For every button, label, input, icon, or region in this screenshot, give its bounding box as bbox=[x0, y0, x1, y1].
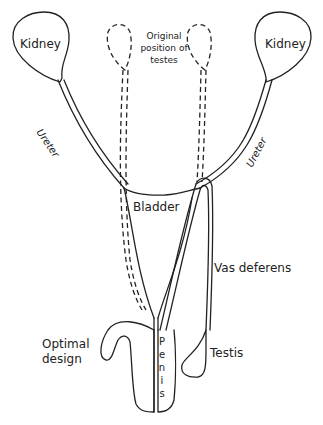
label-penis-i: i bbox=[161, 375, 164, 386]
label-original-3: testes bbox=[150, 55, 178, 65]
label-optimal-2: design bbox=[42, 352, 82, 366]
original-testis-left bbox=[107, 25, 131, 71]
anatomy-diagram: Kidney Kidney Original position of teste… bbox=[0, 0, 323, 425]
label-penis-p: P bbox=[159, 336, 165, 347]
ureter-right-outer bbox=[196, 80, 266, 184]
ureter-left-inner bbox=[64, 80, 128, 184]
label-bladder: Bladder bbox=[133, 200, 180, 214]
label-ureter-left: Ureter bbox=[34, 127, 62, 160]
label-optimal-1: Optimal bbox=[42, 337, 89, 351]
bladder bbox=[124, 188, 200, 195]
label-penis-n: n bbox=[159, 362, 165, 373]
penis-left bbox=[101, 322, 154, 412]
label-kidney-right: Kidney bbox=[265, 37, 306, 51]
original-path-right-1 bbox=[197, 70, 201, 182]
label-testis: Testis bbox=[209, 346, 243, 360]
original-testis-right bbox=[187, 25, 211, 71]
label-original-1: Original bbox=[146, 31, 181, 41]
label-penis-e: e bbox=[159, 349, 165, 360]
original-path-left-1 bbox=[120, 70, 142, 310]
label-original-2: position of bbox=[140, 43, 188, 53]
testis-right bbox=[182, 330, 206, 377]
original-path-right-2 bbox=[202, 70, 206, 182]
label-penis-s: s bbox=[159, 388, 164, 399]
label-vas-deferens: Vas deferens bbox=[214, 261, 291, 275]
label-ureter-right: Ureter bbox=[244, 135, 269, 169]
label-kidney-left: Kidney bbox=[20, 37, 61, 51]
